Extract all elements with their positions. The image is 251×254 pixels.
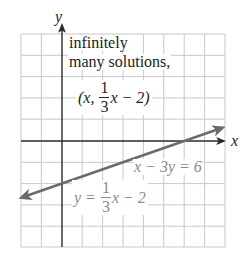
ordered-pair-frac-den: 3 [99,98,109,115]
slope-eq-prefix: y = [74,189,96,206]
ordered-pair-frac-num: 1 [99,80,109,98]
slope-eq-fraction: 1 3 [101,180,111,215]
ordered-pair-fraction: 1 3 [99,80,109,115]
ordered-pair-suffix: x − 2) [110,89,149,106]
annotation-many-solutions: many solutions, [68,54,171,70]
y-axis-label: y [55,9,62,25]
equation-slope-intercept: y = 1 3 x − 2 [72,180,148,215]
slope-eq-suffix: x − 2 [112,189,146,206]
annotation-ordered-pair: (x, 1 3 x − 2) [76,80,152,115]
slope-eq-frac-num: 1 [101,180,111,198]
ordered-pair-prefix: (x, [78,89,94,106]
annotation-infinitely: infinitely [68,35,129,51]
x-axis-label: x [231,133,238,149]
slope-eq-frac-den: 3 [101,198,111,215]
equation-standard-form: x − 3y = 6 [133,159,203,175]
